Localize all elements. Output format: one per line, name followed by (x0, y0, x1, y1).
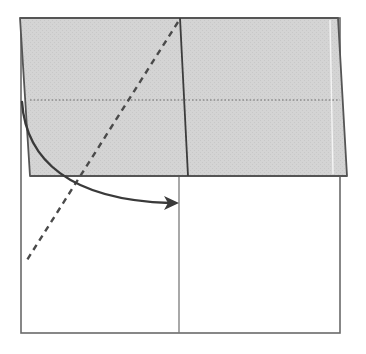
origami-diagram (0, 0, 366, 354)
